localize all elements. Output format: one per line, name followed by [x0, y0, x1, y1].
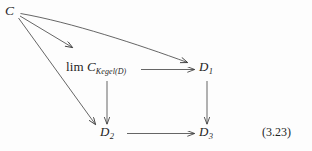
node-d1-index: 1	[209, 66, 213, 76]
node-d3: D3	[199, 125, 213, 138]
node-d1: D1	[199, 60, 213, 73]
commutative-diagram-figure: C limCKegel(D) D1 D2 D3 (3.23)	[0, 0, 312, 151]
node-d2-base: D	[100, 124, 109, 139]
node-c-label: C	[5, 3, 14, 18]
node-limit: limCKegel(D)	[66, 60, 126, 73]
node-c: C	[5, 4, 14, 18]
limit-object-label: C	[87, 59, 96, 74]
node-d2-index: 2	[110, 131, 114, 141]
node-d3-base: D	[199, 124, 208, 139]
node-d3-index: 3	[209, 131, 213, 141]
node-d1-base: D	[199, 59, 208, 74]
limit-operator-label: lim	[66, 59, 84, 74]
arrow-c-to-limit	[20, 16, 73, 48]
equation-number: (3.23)	[262, 125, 291, 140]
limit-subscript-label: Kegel(D)	[96, 67, 127, 76]
node-d2: D2	[100, 125, 114, 138]
